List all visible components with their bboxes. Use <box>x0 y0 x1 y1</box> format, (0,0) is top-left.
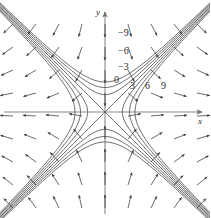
gradient-arrow <box>28 197 36 208</box>
gradient-arrow <box>23 93 36 96</box>
contour-level-label: −6 <box>118 46 129 56</box>
gradient-arrow <box>197 156 208 162</box>
gradient-arrow <box>151 196 157 208</box>
x-axis-label: x <box>198 117 202 126</box>
gradient-arrow <box>128 93 138 101</box>
gradient-arrow <box>174 134 186 139</box>
gradient-arrow <box>1 70 13 75</box>
gradient-arrow <box>4 24 13 33</box>
gradient-arrow <box>48 132 59 139</box>
gradient-arrow <box>23 115 36 116</box>
gradient-arrow <box>25 70 36 77</box>
gradient-arrow <box>151 132 162 139</box>
contour-level-6 <box>130 4 211 218</box>
gradient-arrow <box>151 152 160 162</box>
gradient-arrow <box>174 197 182 208</box>
gradient-arrow <box>0 115 13 116</box>
gradient-arrow <box>72 93 82 101</box>
gradient-arrow <box>197 24 206 33</box>
gradient-arrow <box>197 177 207 185</box>
contour-level-label: 6 <box>145 81 150 91</box>
gradient-arrow <box>79 24 82 37</box>
gradient-arrow <box>128 47 132 59</box>
gradient-arrow <box>1 135 13 139</box>
gradient-arrow <box>174 115 187 116</box>
contour-plot-figure: −9−6−30369yx <box>0 0 210 218</box>
gradient-arrow <box>151 24 157 36</box>
gradient-arrow <box>25 154 36 162</box>
contour-level-label: 0 <box>114 75 119 85</box>
contour-level-6 <box>0 4 81 218</box>
gradient-arrow <box>3 177 13 185</box>
gradient-arrow <box>197 93 210 96</box>
gradient-arrow <box>174 154 185 162</box>
gradient-arrow <box>197 47 208 55</box>
gradient-arrow <box>78 47 82 59</box>
gradient-arrow <box>50 152 59 162</box>
gradient-arrow <box>0 93 13 96</box>
gradient-arrow <box>174 93 187 96</box>
gradient-arrow <box>128 129 136 139</box>
y-axis-label: y <box>96 8 100 17</box>
gradient-arrow <box>24 134 36 139</box>
gradient-arrow <box>47 93 59 98</box>
gradient-arrow <box>53 24 59 36</box>
contour-level-label: 9 <box>161 81 166 91</box>
gradient-arrow <box>128 195 131 208</box>
gradient-arrow <box>174 47 183 56</box>
plot-canvas <box>0 0 210 218</box>
gradient-arrow <box>174 70 185 77</box>
gradient-arrow <box>151 93 163 98</box>
gradient-arrow <box>151 174 158 185</box>
gradient-arrow <box>79 195 82 208</box>
gradient-arrow <box>78 173 82 185</box>
gradient-arrow <box>151 115 164 116</box>
gradient-arrow <box>52 174 59 185</box>
gradient-arrow <box>2 47 13 55</box>
gradient-arrow <box>128 173 132 185</box>
gradient-arrow <box>74 129 82 139</box>
gradient-arrow <box>53 196 59 208</box>
contour-level-label: 3 <box>130 81 135 91</box>
contour-level-label: −3 <box>118 62 129 72</box>
gradient-arrow <box>197 135 209 139</box>
contour-level-label: −9 <box>118 28 129 38</box>
gradient-arrow <box>27 47 36 56</box>
gradient-arrow <box>2 156 13 162</box>
gradient-arrow <box>46 115 59 116</box>
gradient-arrow <box>197 70 209 75</box>
